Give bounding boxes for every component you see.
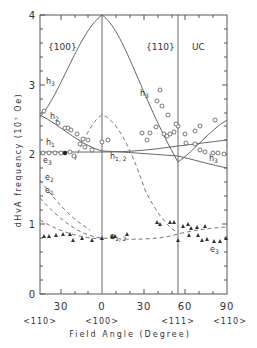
curve-h-lower — [40, 115, 227, 168]
x-ticks — [61, 15, 213, 294]
x-tick-labels: 30 0 30 60 90 — [54, 301, 235, 312]
svg-text:0: 0 — [29, 289, 35, 300]
svg-text:0: 0 — [98, 301, 105, 312]
svg-text:1: 1 — [29, 219, 35, 230]
svg-text:4: 4 — [29, 10, 35, 21]
svg-text:h3: h3 — [209, 154, 218, 164]
svg-text:e2: e2 — [45, 173, 54, 183]
svg-text:90: 90 — [220, 301, 235, 312]
svg-text:h1: h1 — [46, 138, 55, 148]
svg-text:h2: h2 — [50, 112, 59, 122]
svg-text:e3: e3 — [43, 156, 52, 166]
branch-labels: h3 h2 h1 e3 e2 e1 h1, 2 e1, 2 h3 h3 e3 — [43, 77, 219, 255]
svg-text:60: 60 — [178, 301, 193, 312]
svg-text:e1: e1 — [45, 186, 54, 196]
x-axis-label: Field Angle (Degree) — [69, 330, 191, 339]
svg-text:3: 3 — [29, 80, 35, 91]
svg-text:<100>: <100> — [85, 317, 119, 326]
region-label-110: {110} — [146, 42, 175, 52]
y-ticks — [40, 15, 227, 294]
svg-text:30: 30 — [54, 301, 69, 312]
svg-text:2: 2 — [29, 149, 35, 160]
plot-frame — [40, 15, 227, 294]
svg-text:<111>: <111> — [161, 317, 195, 326]
svg-text:<110>: <110> — [23, 317, 57, 326]
y-tick-labels: 0 1 2 3 4 — [29, 10, 35, 300]
dashed-curves — [40, 115, 227, 239]
svg-text:h1, 2: h1, 2 — [110, 152, 127, 162]
dhva-frequency-chart: h3 h2 h1 e3 e2 e1 h1, 2 e1, 2 h3 h3 e3 {… — [0, 0, 257, 348]
y-axis-label: dHvA frequency (10⁷ Oe) — [14, 93, 23, 227]
svg-text:h3: h3 — [46, 77, 55, 87]
svg-text:h3: h3 — [140, 89, 149, 99]
region-label-uc: UC — [192, 42, 205, 52]
region-label-100: {100} — [48, 42, 77, 52]
svg-text:<110>: <110> — [213, 317, 247, 326]
svg-text:30: 30 — [137, 301, 152, 312]
svg-text:e1, 2: e1, 2 — [110, 232, 127, 242]
svg-text:e3: e3 — [210, 245, 219, 255]
direction-labels: <110> <100> <111> <110> — [23, 317, 247, 326]
hole-data-points — [41, 88, 226, 158]
filled-circle-point — [63, 151, 67, 155]
